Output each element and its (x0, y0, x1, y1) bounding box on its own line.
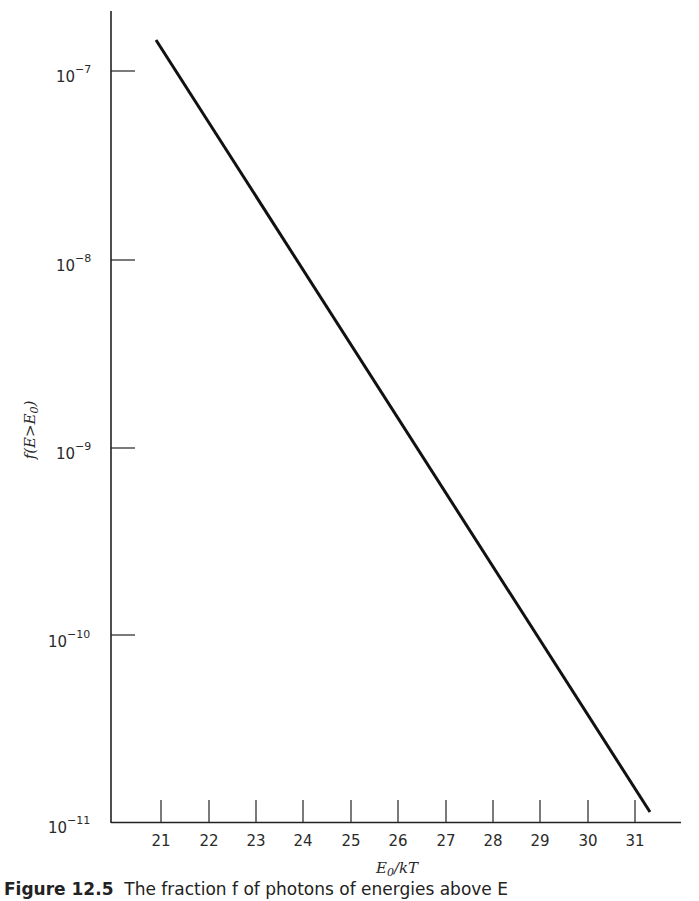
x-tick-label: 28 (483, 832, 502, 850)
x-tick-label: 21 (151, 832, 170, 850)
y-axis-label: f(E>E0) (21, 400, 41, 460)
y-ticks (111, 71, 135, 635)
x-tick-label: 31 (625, 832, 644, 850)
y-tick-label: 10−10 (48, 628, 90, 651)
x-tick-label: 29 (530, 832, 549, 850)
x-tick-label: 24 (293, 832, 312, 850)
chart: 10−7 10−8 10−9 10−10 10−11 f(E>E0) 21 22… (0, 0, 699, 901)
y-tick-label: 10−8 (56, 252, 91, 275)
figure-caption: Figure 12.5 The fraction f of photons of… (4, 879, 508, 899)
x-tick-label: 27 (436, 832, 455, 850)
y-tick-label: 10−9 (56, 440, 91, 463)
x-tick-label: 26 (388, 832, 407, 850)
x-tick-label: 22 (199, 832, 218, 850)
caption-text: The fraction f of photons of energies ab… (124, 879, 508, 899)
y-tick-label: 10−7 (56, 63, 91, 86)
x-tick-label: 25 (341, 832, 360, 850)
data-line (156, 40, 650, 812)
x-tick-labels: 21 22 23 24 25 26 27 28 29 30 31 (151, 832, 644, 850)
x-axis-label: E0/kT (375, 859, 419, 879)
y-tick-labels: 10−7 10−8 10−9 10−10 10−11 (48, 63, 91, 837)
figure-label: Figure 12.5 (4, 879, 114, 899)
x-tick-label: 23 (246, 832, 265, 850)
x-ticks (161, 800, 635, 822)
y-tick-label: 10−11 (48, 814, 90, 837)
x-tick-label: 30 (578, 832, 597, 850)
